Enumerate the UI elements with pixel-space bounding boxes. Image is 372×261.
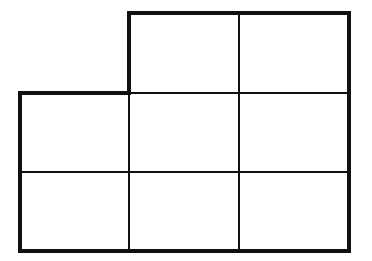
grid-diagram xyxy=(0,0,372,261)
background xyxy=(0,0,372,261)
